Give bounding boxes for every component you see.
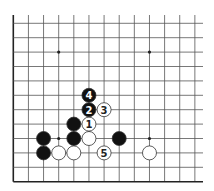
move-number: 3 bbox=[101, 105, 108, 116]
white-stone-move-5: 5 bbox=[97, 146, 111, 160]
white-stone bbox=[67, 146, 81, 160]
black-stone bbox=[112, 132, 126, 146]
move-number: 5 bbox=[101, 148, 108, 159]
star-point bbox=[148, 51, 151, 54]
black-stone bbox=[67, 117, 81, 131]
white-stone-move-1: 1 bbox=[82, 117, 96, 131]
star-point bbox=[148, 137, 151, 140]
move-number: 4 bbox=[85, 90, 92, 101]
white-stone bbox=[142, 146, 156, 160]
white-stone bbox=[52, 146, 66, 160]
black-stone-move-2: 2 bbox=[82, 103, 96, 117]
black-stone bbox=[37, 146, 51, 160]
black-stone bbox=[67, 132, 81, 146]
black-stone bbox=[37, 132, 51, 146]
star-point bbox=[57, 137, 60, 140]
black-stone-move-4: 4 bbox=[82, 88, 96, 102]
move-number: 1 bbox=[85, 119, 92, 130]
star-point bbox=[57, 51, 60, 54]
go-board: 12345 bbox=[0, 0, 214, 191]
white-stone-move-3: 3 bbox=[97, 103, 111, 117]
move-number: 2 bbox=[85, 105, 92, 116]
white-stone bbox=[82, 132, 96, 146]
